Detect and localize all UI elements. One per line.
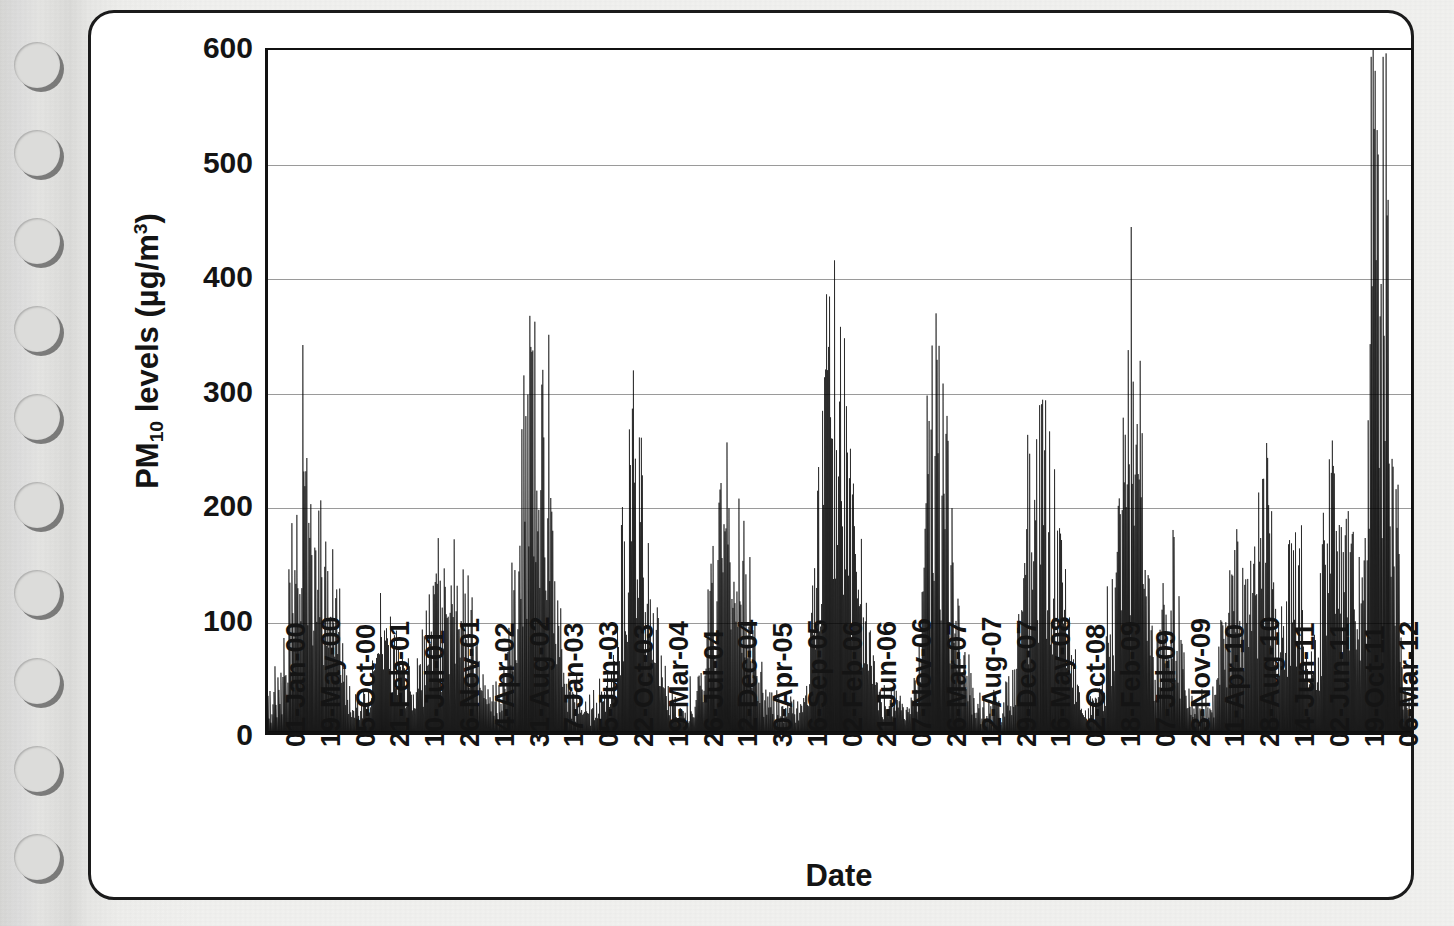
x-axis-tick-label: 30-Apr-05 bbox=[770, 622, 797, 747]
x-axis-tick-label: 12-Aug-07 bbox=[979, 616, 1006, 747]
y-axis-title: PM10 levels (µg/m3) bbox=[130, 141, 166, 561]
binding-hole bbox=[14, 42, 60, 88]
x-axis-tick-label: 14-Apr-02 bbox=[492, 622, 519, 747]
y-axis-title-rest: levels (µg/m bbox=[130, 234, 165, 421]
x-axis-tick-label: 19-Oct-11 bbox=[1362, 625, 1389, 747]
pm10-time-series-figure: PM10 levels (µg/m3) 0100200300400500600 … bbox=[91, 13, 1417, 903]
x-axis-tick-label: 19-Mar-04 bbox=[666, 621, 693, 747]
x-axis-tick-label: 19-May-00 bbox=[318, 616, 345, 747]
spiral-binding-holes bbox=[0, 0, 90, 926]
y-axis-tick-label: 400 bbox=[203, 262, 253, 292]
x-axis-tick-label: 29-Dec-07 bbox=[1014, 619, 1041, 747]
x-axis-tick-label: 21-Jun-06 bbox=[874, 621, 901, 747]
x-axis-title: Date bbox=[265, 858, 1413, 894]
y-axis-title-superscript: 3 bbox=[130, 224, 151, 235]
x-axis-tick-labels: 01-Jan-0019-May-0005-Oct-0021-Feb-0110-J… bbox=[265, 735, 1413, 865]
x-axis-tick-label: 12-Dec-04 bbox=[735, 619, 762, 747]
x-axis-tick-label: 11-Apr-10 bbox=[1222, 624, 1249, 747]
x-axis-tick-label: 28-Aug-10 bbox=[1257, 616, 1284, 747]
x-axis-tick-label: 10-Jul-01 bbox=[422, 630, 449, 747]
x-axis-tick-label: 01-Jan-00 bbox=[283, 622, 310, 747]
binding-hole bbox=[14, 746, 60, 792]
x-axis-tick-label: 02-Feb-06 bbox=[840, 621, 867, 747]
x-axis-tick-label: 16-Sep-05 bbox=[805, 619, 832, 747]
y-axis-tick-label: 500 bbox=[203, 148, 253, 178]
x-axis-tick-label: 06-Mar-12 bbox=[1396, 621, 1423, 747]
binding-hole bbox=[14, 482, 60, 528]
x-axis-tick-label: 16-May-08 bbox=[1048, 616, 1075, 747]
x-axis-tick-label: 26-Mar-07 bbox=[944, 621, 971, 747]
x-axis-tick-label: 21-Feb-01 bbox=[387, 621, 414, 747]
y-axis-tick-label: 300 bbox=[203, 377, 253, 407]
y-axis-tick-label: 100 bbox=[203, 606, 253, 636]
x-axis-tick-label: 14-Jun-11 bbox=[1292, 622, 1319, 747]
x-axis-tick-label: 07-Nov-06 bbox=[909, 618, 936, 747]
y-axis-tick-labels: 0100200300400500600 bbox=[165, 48, 253, 735]
x-axis-tick-label: 23-Nov-09 bbox=[1188, 618, 1215, 747]
x-axis-tick-label: 17-Jan-03 bbox=[561, 622, 588, 747]
binding-hole bbox=[14, 130, 60, 176]
binding-hole bbox=[14, 218, 60, 264]
y-axis-tick-label: 600 bbox=[203, 33, 253, 63]
printed-page: PM10 levels (µg/m3) 0100200300400500600 … bbox=[88, 10, 1414, 900]
y-axis-tick-label: 0 bbox=[236, 720, 253, 750]
y-axis-title-main: PM bbox=[130, 442, 165, 489]
binding-hole bbox=[14, 570, 60, 616]
binding-hole bbox=[14, 658, 60, 704]
y-axis-tick-label: 200 bbox=[203, 491, 253, 521]
x-axis-tick-label: 31-Aug-02 bbox=[527, 616, 554, 747]
binding-hole bbox=[14, 306, 60, 352]
x-axis-tick-label: 26-Nov-01 bbox=[457, 618, 484, 747]
x-axis-tick-label: 05-Jun-03 bbox=[596, 621, 623, 747]
x-axis-tick-label: 02-Oct-08 bbox=[1083, 624, 1110, 747]
binding-hole bbox=[14, 834, 60, 880]
x-axis-tick-label: 26-Jul-04 bbox=[701, 630, 728, 747]
binding-hole bbox=[14, 394, 60, 440]
x-axis-tick-label: 02-Jun-11 bbox=[1327, 622, 1354, 747]
x-axis-tick-label: 05-Oct-00 bbox=[353, 624, 380, 747]
x-axis-tick-label: 22-Oct-03 bbox=[631, 624, 658, 747]
x-axis-tick-label: 18-Feb-09 bbox=[1118, 621, 1145, 747]
x-axis-tick-label: 07-Jul-09 bbox=[1153, 630, 1180, 747]
y-axis-title-end: ) bbox=[130, 213, 165, 223]
